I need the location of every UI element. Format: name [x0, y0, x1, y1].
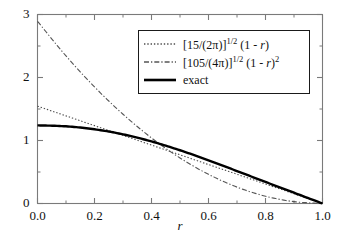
series-line-2: [38, 125, 323, 203]
y-tick-label-3: 3: [8, 6, 30, 22]
dotted-line-key: [143, 37, 177, 51]
legend-label-1-prefix: [105/(4π)]: [183, 56, 232, 70]
figure: 0 1 2 3 0.0 0.2 0.4 0.6 0.8 1.0 r [15/(2…: [0, 0, 341, 243]
legend-label-2: exact: [183, 74, 208, 86]
legend-label-1-suffix: (1 -: [243, 56, 266, 70]
solid-line-key: [143, 73, 177, 87]
legend-entry-2: exact: [143, 71, 304, 89]
legend-label-0-suffix: (1 -: [237, 38, 260, 52]
dashdot-line-key: [143, 55, 177, 69]
legend-label-0-prefix: [15/(2π)]: [183, 38, 226, 52]
x-tick-label-0: 0.0: [18, 208, 58, 224]
legend-label-0: [15/(2π)]1/2 (1 - r): [183, 37, 269, 51]
y-tick-label-2: 2: [8, 69, 30, 85]
legend-label-1-exponent: 1/2: [232, 54, 243, 64]
legend-box: [15/(2π)]1/2 (1 - r) [105/(4π)]1/2 (1 - …: [138, 30, 310, 94]
x-axis-title: r: [160, 218, 200, 234]
series-line-0: [38, 106, 323, 203]
legend-label-0-tail: ): [265, 38, 269, 52]
legend-label-1: [105/(4π)]1/2 (1 - r)2: [183, 55, 279, 69]
legend-label-1-power: 2: [275, 54, 279, 64]
legend-entry-1: [105/(4π)]1/2 (1 - r)2: [143, 53, 304, 71]
legend-entry-0: [15/(2π)]1/2 (1 - r): [143, 35, 304, 53]
x-tick-label-4: 0.8: [246, 208, 286, 224]
x-tick-label-1: 0.2: [75, 208, 115, 224]
legend-label-0-exponent: 1/2: [226, 36, 237, 46]
x-tick-label-5: 1.0: [303, 208, 341, 224]
y-tick-label-1: 1: [8, 132, 30, 148]
